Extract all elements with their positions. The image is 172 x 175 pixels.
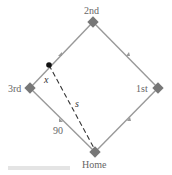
arrow-icon [126, 52, 130, 56]
direction-arrows [58, 52, 131, 122]
arrow-icon [58, 52, 62, 56]
baseline-home-first [95, 88, 158, 152]
distance-line-s [49, 65, 95, 150]
caption-truncated [8, 166, 70, 170]
third-base-label: 3rd [8, 84, 21, 94]
first-base-label: 1st [136, 84, 148, 94]
home-plate-label: Home [82, 160, 106, 170]
baseline-first-second [93, 22, 158, 88]
runner-distance-label: x [44, 75, 48, 85]
side-length-label: 90 [53, 126, 63, 136]
baseline-third-home [30, 88, 95, 152]
distance-to-home-label: s [75, 99, 79, 109]
runner-dot [46, 62, 52, 68]
second-base-label: 2nd [84, 6, 99, 16]
